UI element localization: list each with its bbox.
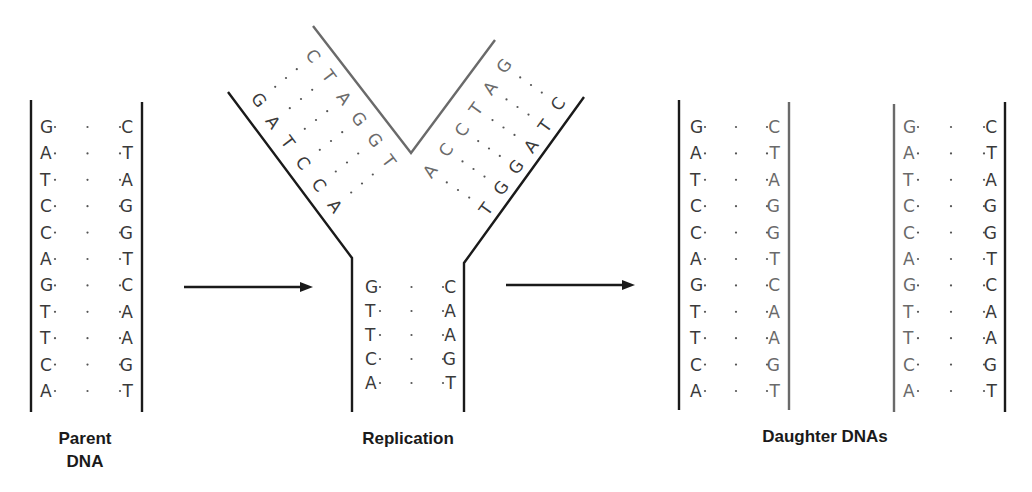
hydrogen-bond-dot	[119, 364, 121, 366]
hydrogen-bond-dot	[766, 179, 768, 181]
parent-base-pairs: GCATTACGCGATGCTATACGAT	[39, 117, 134, 401]
base-letter: G	[903, 275, 916, 295]
hydrogen-bond-dot	[950, 205, 952, 207]
hydrogen-bond-dot	[442, 310, 444, 312]
base-letter: C	[690, 196, 702, 216]
hydrogen-bond-dot	[983, 284, 985, 286]
hydrogen-bond-dot	[54, 311, 56, 313]
hydrogen-bond-dot	[86, 258, 88, 260]
base-pair-row: CG	[690, 355, 780, 375]
base-pair-row: CG	[40, 196, 133, 216]
base-letter: C	[434, 139, 457, 160]
hydrogen-bond-dot	[917, 205, 919, 207]
base-letter: T	[769, 249, 781, 269]
base-pair-row: AT	[40, 249, 134, 269]
hydrogen-bond-dot	[917, 390, 919, 392]
base-letter: T	[276, 131, 299, 153]
hydrogen-bond-dot	[274, 86, 276, 88]
hydrogen-bond-dot	[477, 140, 479, 142]
base-letter: C	[121, 117, 133, 137]
hydrogen-bond-dot	[499, 155, 501, 157]
hydrogen-bond-dot	[917, 311, 919, 313]
daughter1-base-pairs: GCATTACGCGATGCTATACGAT	[689, 117, 781, 401]
hydrogen-bond-dot	[766, 126, 768, 128]
hydrogen-bond-dot	[315, 119, 317, 121]
base-letter: C	[690, 355, 702, 375]
base-pair-row: TA	[902, 328, 997, 348]
base-letter: C	[40, 355, 52, 375]
base-letter: T	[317, 65, 340, 87]
base-pair-row: GC	[365, 277, 456, 297]
base-letter: C	[903, 223, 915, 243]
replication-fork: GATCCACTAGGTGATCCACTAGGT GCTATACGAT	[228, 26, 584, 412]
hydrogen-bond-dot	[86, 232, 88, 234]
base-letter: G	[903, 117, 916, 137]
hydrogen-bond-dot	[300, 98, 302, 100]
base-pair-row: TA	[39, 170, 133, 190]
daughter-dna-2: GCATTACGCGATGCTATACGAT	[894, 102, 1005, 412]
hydrogen-bond-dot	[766, 152, 768, 154]
base-letter: G	[767, 355, 780, 375]
base-letter: G	[489, 177, 513, 199]
hydrogen-bond-dot	[950, 179, 952, 181]
base-pair-row: TA	[902, 170, 997, 190]
daughter2-base-pairs: GCATTACGCGATGCTATACGAT	[902, 117, 998, 401]
base-letter: A	[40, 381, 52, 401]
dna-replication-diagram: GCATTACGCGATGCTATACGAT GATCCACTAGGTGATCC…	[0, 0, 1032, 492]
base-letter: C	[291, 152, 314, 174]
hydrogen-bond-dot	[766, 232, 768, 234]
base-letter: G	[690, 275, 703, 295]
hydrogen-bond-dot	[119, 284, 121, 286]
hydrogen-bond-dot	[766, 337, 768, 339]
hydrogen-bond-dot	[54, 364, 56, 366]
base-letter: G	[120, 355, 133, 375]
hydrogen-bond-dot	[54, 152, 56, 154]
hydrogen-bond-dot	[350, 191, 352, 193]
base-letter: T	[689, 170, 701, 190]
hydrogen-bond-dot	[341, 131, 343, 133]
base-pair-row: TA	[39, 302, 133, 322]
hydrogen-bond-dot	[119, 258, 121, 260]
base-pair-row: TA	[364, 301, 456, 321]
base-pair-row: CG	[903, 355, 997, 375]
fork-stem-base-pairs: GCTATACGAT	[364, 277, 457, 393]
hydrogen-bond-dot	[527, 114, 529, 116]
hydrogen-bond-dot	[326, 110, 328, 112]
base-letter: A	[985, 170, 997, 190]
hydrogen-bond-dot	[472, 168, 474, 170]
base-pair-row: AT	[365, 373, 457, 393]
base-pair-row: GC	[40, 275, 133, 295]
replication-label: Replication	[362, 429, 454, 448]
hydrogen-bond-dot	[379, 382, 381, 384]
hydrogen-bond-dot	[983, 337, 985, 339]
hydrogen-bond-dot	[372, 173, 374, 175]
base-pair-row: CG	[903, 196, 997, 216]
hydrogen-bond-dot	[917, 337, 919, 339]
base-letter: G	[492, 55, 516, 77]
hydrogen-bond-dot	[704, 232, 706, 234]
hydrogen-bond-dot	[735, 205, 737, 207]
hydrogen-bond-dot	[289, 107, 291, 109]
hydrogen-bond-dot	[983, 390, 985, 392]
base-letter: G	[247, 89, 271, 112]
daughter-dna-1: GCATTACGCGATGCTATACGAT	[679, 100, 789, 410]
hydrogen-bond-dot	[735, 284, 737, 286]
hydrogen-bond-dot	[950, 311, 952, 313]
hydrogen-bond-dot	[319, 149, 321, 151]
hydrogen-bond-dot	[54, 179, 56, 181]
base-letter: C	[450, 119, 473, 140]
base-letter: G	[984, 196, 997, 216]
base-letter: T	[986, 249, 998, 269]
hydrogen-bond-dot	[735, 337, 737, 339]
hydrogen-bond-dot	[735, 232, 737, 234]
base-letter: T	[364, 301, 376, 321]
base-letter: G	[363, 129, 387, 152]
hydrogen-bond-dot	[119, 337, 121, 339]
hydrogen-bond-dot	[950, 152, 952, 154]
hydrogen-bond-dot	[86, 337, 88, 339]
base-letter: A	[985, 302, 997, 322]
base-letter: T	[689, 302, 701, 322]
hydrogen-bond-dot	[119, 311, 121, 313]
hydrogen-bond-dot	[704, 284, 706, 286]
base-letter: A	[40, 143, 52, 163]
